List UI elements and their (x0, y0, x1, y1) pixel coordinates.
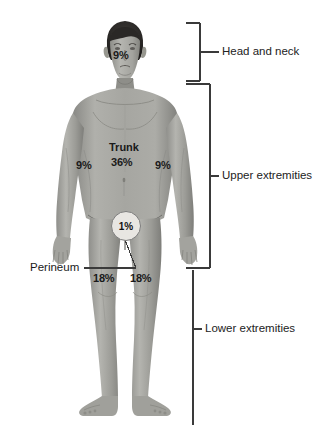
head-percent-label: 9% (113, 49, 129, 61)
upper-extremities-bracket (186, 84, 219, 268)
perineum-percent-badge: 1% (111, 211, 141, 241)
head-and-neck-bracket (186, 23, 219, 81)
perineum-percent-value: 1% (119, 221, 133, 232)
left-leg-percent-label: 18% (93, 272, 114, 284)
perineum-callout-label: Perineum (30, 261, 79, 273)
rule-of-nines-diagram: 1% 9% 9% Trunk 36% 9% 18% 18% Perineum H… (0, 0, 320, 442)
right-leg-percent-label: 18% (130, 272, 151, 284)
lower-extremities-bracket (193, 270, 202, 425)
trunk-label: Trunk (109, 141, 139, 153)
trunk-percent-label: 36% (111, 156, 132, 168)
perineum-leader-line (84, 240, 136, 268)
region-label-upper-extremities: Upper extremities (222, 169, 312, 181)
left-arm-percent-label: 9% (76, 159, 92, 171)
region-label-head-and-neck: Head and neck (222, 45, 299, 57)
right-arm-percent-label: 9% (155, 159, 171, 171)
annotation-overlay (0, 0, 320, 442)
region-label-lower-extremities: Lower extremities (205, 322, 295, 334)
